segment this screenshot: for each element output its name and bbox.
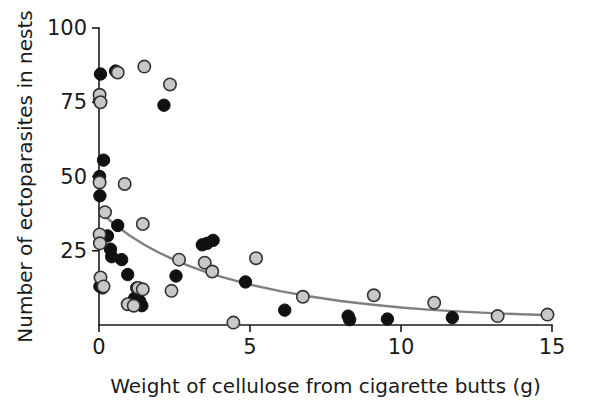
scatter-plot-figure: 051015255075100 Weight of cellulose from… [0,0,592,406]
data-point-0-11 [115,253,127,265]
data-point-0-24 [279,304,291,316]
data-point-0-19 [170,270,182,282]
y-tick-label-3: 100 [47,16,87,40]
data-point-0-28 [446,311,458,323]
data-point-1-11 [173,253,185,265]
data-point-1-1 [138,60,150,72]
x-axis-title: Weight of cellulose from cigarette butts… [110,374,541,398]
data-point-0-6 [94,190,106,202]
data-point-1-16 [97,280,109,292]
data-point-1-0 [112,66,124,78]
data-point-1-21 [128,299,140,311]
data-point-0-23 [239,276,251,288]
data-point-0-0 [94,68,106,80]
y-tick-label-2: 75 [60,90,87,114]
data-point-0-3 [158,99,170,111]
x-tick-label-3: 15 [539,335,566,359]
data-point-1-8 [137,218,149,230]
x-tick-label-2: 10 [388,335,415,359]
data-point-1-2 [164,78,176,90]
data-point-1-5 [93,176,105,188]
data-point-1-13 [250,252,262,264]
data-point-1-19 [165,285,177,297]
data-point-0-22 [207,234,219,246]
fit-curve-layer [99,211,552,316]
data-point-0-4 [97,154,109,166]
data-point-1-6 [118,178,130,190]
data-point-0-7 [112,219,124,231]
data-point-0-27 [381,313,393,325]
data-point-1-27 [541,308,553,320]
data-point-1-26 [491,310,503,322]
x-tick-label-1: 5 [243,335,256,359]
plot-canvas: 051015255075100 Weight of cellulose from… [0,0,592,406]
data-point-1-10 [94,237,106,249]
y-axis-title: Number of ectoparasites in nests [13,10,37,342]
x-tick-label-0: 0 [92,335,105,359]
y-tick-label-1: 50 [60,165,87,189]
fit-curve-path [99,211,552,316]
data-point-1-25 [227,316,239,328]
data-point-0-12 [121,268,133,280]
data-point-1-18 [137,283,149,295]
data-points-layer [93,60,553,328]
data-point-0-26 [343,313,355,325]
y-tick-label-0: 25 [60,239,87,263]
data-point-1-14 [206,265,218,277]
data-point-1-22 [297,291,309,303]
data-point-1-4 [94,96,106,108]
data-point-1-7 [99,206,111,218]
data-point-1-24 [428,297,440,309]
data-point-1-23 [368,289,380,301]
